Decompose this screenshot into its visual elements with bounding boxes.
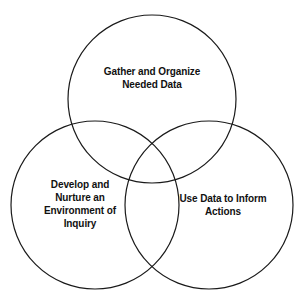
venn-label-gather: Gather and Organize Needed Data bbox=[82, 65, 222, 91]
venn-circle-gather bbox=[68, 15, 236, 183]
venn-label-use: Use Data to Inform Actions bbox=[166, 192, 280, 218]
venn-diagram: Gather and Organize Needed Data Develop … bbox=[0, 0, 305, 296]
venn-circles-group bbox=[0, 0, 305, 296]
venn-label-develop: Develop and Nurture an Environment of In… bbox=[24, 178, 136, 230]
